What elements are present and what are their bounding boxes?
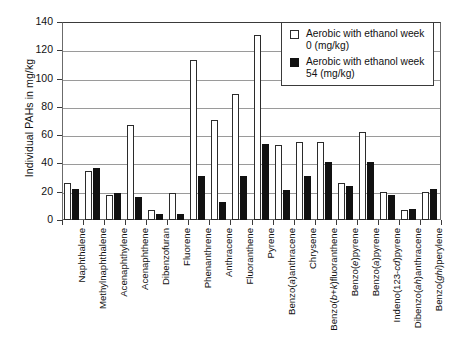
x-axis-label: Dibenzofuran bbox=[161, 228, 171, 285]
x-axis-label: Phenanthrene bbox=[203, 228, 213, 288]
bar bbox=[219, 202, 226, 220]
y-axis-label: 20 bbox=[13, 186, 53, 197]
bar bbox=[296, 142, 303, 220]
chart-legend: Aerobic with ethanol week 0 (mg/kg) Aero… bbox=[281, 22, 434, 86]
x-axis-label: Anthracene bbox=[224, 228, 234, 277]
x-axis-label: Benzo(a)anthracene bbox=[287, 228, 297, 315]
bar bbox=[317, 142, 324, 220]
y-axis-label: 40 bbox=[13, 157, 53, 168]
bar bbox=[127, 125, 134, 220]
bar bbox=[367, 162, 374, 220]
y-axis-label: 100 bbox=[13, 73, 53, 84]
x-axis-label: Fluoranthene bbox=[245, 228, 255, 285]
bar-group bbox=[167, 22, 188, 220]
x-axis-tick bbox=[378, 220, 379, 225]
bar bbox=[430, 189, 437, 220]
x-axis-tick bbox=[399, 220, 400, 225]
x-axis-label: Benzo(ghi)perylene bbox=[434, 228, 444, 311]
x-axis-label: Indeno(123-cd)pyrene bbox=[392, 228, 402, 322]
x-axis-tick bbox=[83, 220, 84, 225]
bar bbox=[190, 60, 197, 220]
y-axis-label: 0 bbox=[13, 214, 53, 225]
bar bbox=[85, 171, 92, 221]
filled-square-icon bbox=[290, 58, 299, 67]
bar bbox=[93, 168, 100, 220]
x-axis-label: Benzo(a)pyrene bbox=[371, 228, 381, 296]
x-axis-tick bbox=[336, 220, 337, 225]
bar bbox=[211, 120, 218, 220]
x-axis-label: Acenaphthene bbox=[140, 228, 150, 290]
bar-group bbox=[104, 22, 125, 220]
bar bbox=[338, 183, 345, 220]
x-axis-label: Chrysene bbox=[308, 228, 318, 269]
x-axis-tick bbox=[188, 220, 189, 225]
bar bbox=[254, 35, 261, 220]
x-axis-label: Benzo(b+k)fluoranthene bbox=[329, 228, 339, 331]
x-axis-label: Dibenzo(ah)anthracene bbox=[413, 228, 423, 328]
x-axis-label: Naphthalene bbox=[77, 228, 87, 282]
x-axis-tick bbox=[252, 220, 253, 225]
bar bbox=[262, 144, 269, 220]
x-axis-tick bbox=[273, 220, 274, 225]
bar bbox=[388, 195, 395, 220]
legend-label-week0: Aerobic with ethanol week 0 (mg/kg) bbox=[306, 28, 427, 51]
y-axis-label: 80 bbox=[13, 101, 53, 112]
bar-group bbox=[62, 22, 83, 220]
bar bbox=[409, 209, 416, 220]
bar bbox=[304, 176, 311, 220]
bar-group bbox=[209, 22, 230, 220]
x-axis-tick bbox=[441, 220, 442, 225]
bar bbox=[325, 162, 332, 220]
bar bbox=[380, 192, 387, 220]
bar bbox=[283, 190, 290, 220]
bar bbox=[275, 145, 282, 220]
x-axis-label: Benzo(e)pyrene bbox=[350, 228, 360, 296]
legend-item-week54: Aerobic with ethanol week 54 (mg/kg) bbox=[289, 56, 427, 79]
x-axis-tick bbox=[167, 220, 168, 225]
x-axis-tick bbox=[104, 220, 105, 225]
bar-group bbox=[125, 22, 146, 220]
x-axis-tick bbox=[209, 220, 210, 225]
bar-group bbox=[83, 22, 104, 220]
x-axis-label: Methylnaphthalene bbox=[98, 228, 108, 309]
bar bbox=[72, 189, 79, 220]
x-axis-tick bbox=[315, 220, 316, 225]
y-axis-label: 140 bbox=[13, 16, 53, 27]
bar bbox=[114, 193, 121, 220]
x-axis-label: Fluorene bbox=[182, 228, 192, 266]
bar bbox=[198, 176, 205, 220]
x-axis-tick bbox=[146, 220, 147, 225]
legend-label-week54: Aerobic with ethanol week 54 (mg/kg) bbox=[306, 56, 427, 79]
bar bbox=[232, 94, 239, 220]
x-axis-tick bbox=[230, 220, 231, 225]
bar bbox=[346, 186, 353, 220]
bar-group bbox=[230, 22, 251, 220]
x-axis-tick bbox=[357, 220, 358, 225]
bar bbox=[135, 197, 142, 220]
x-axis-tick bbox=[420, 220, 421, 225]
bar-chart: Individual PAHs in mg/kg 020406080100120… bbox=[0, 0, 452, 352]
legend-item-week0: Aerobic with ethanol week 0 (mg/kg) bbox=[289, 28, 427, 51]
bar-group bbox=[252, 22, 273, 220]
x-axis-tick bbox=[62, 220, 63, 225]
y-axis-label: 120 bbox=[13, 44, 53, 55]
bar bbox=[156, 214, 163, 220]
x-axis-tick bbox=[294, 220, 295, 225]
bar-group bbox=[188, 22, 209, 220]
bar bbox=[401, 210, 408, 220]
x-axis-label: Acenaphthylene bbox=[119, 228, 129, 297]
bar bbox=[177, 214, 184, 220]
x-axis-label: Pyrene bbox=[266, 228, 276, 258]
bar bbox=[148, 210, 155, 220]
bar bbox=[64, 183, 71, 220]
bar bbox=[422, 192, 429, 220]
x-axis-tick bbox=[125, 220, 126, 225]
bar bbox=[106, 195, 113, 220]
open-square-icon bbox=[290, 30, 299, 39]
y-axis-label: 60 bbox=[13, 129, 53, 140]
bar-group bbox=[146, 22, 167, 220]
bar bbox=[169, 193, 176, 220]
bar bbox=[359, 132, 366, 220]
bar bbox=[240, 176, 247, 220]
